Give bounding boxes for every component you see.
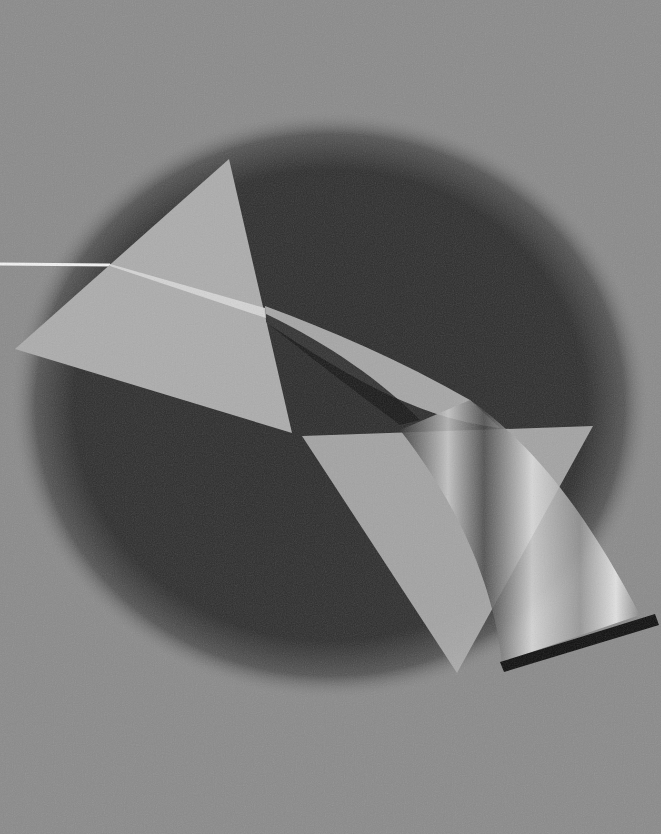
paper-texture [0,0,661,834]
prism-illustration [0,0,661,834]
artwork-canvas [0,0,661,834]
